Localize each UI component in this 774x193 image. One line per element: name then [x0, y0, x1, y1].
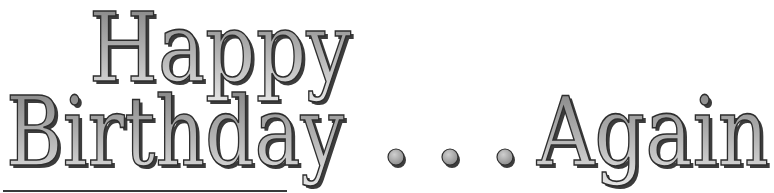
again-text: Again	[536, 76, 769, 188]
horizontal-rule	[3, 190, 287, 192]
again-word: Again Again	[536, 76, 772, 191]
birthday-word: Birthday Birthday	[6, 76, 347, 191]
birthday-text: Birthday	[6, 76, 344, 188]
ellipsis-text: . . .	[0, 0, 2, 1]
title-graphic: Happy Happy Birthday Birthday . . . Agai…	[0, 0, 774, 193]
